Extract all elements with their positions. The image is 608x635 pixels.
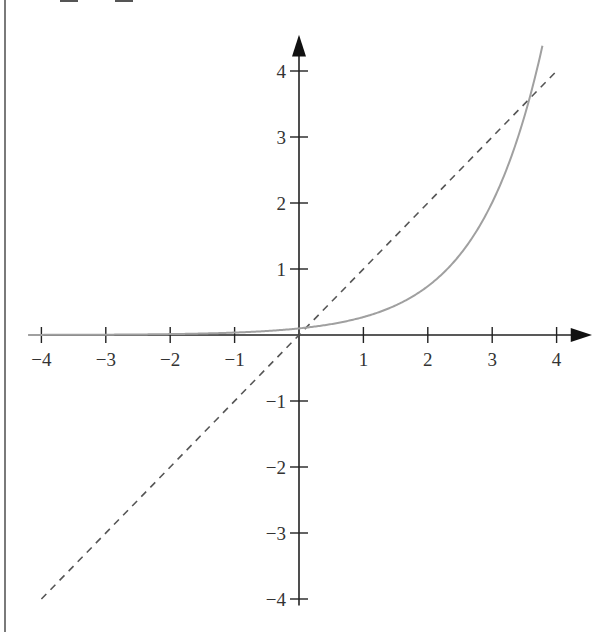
plot-series [29,46,557,599]
y-tick-label: −2 [266,457,286,478]
function-plot: −4−3−2−112344321−1−2−3−4 [0,0,608,635]
x-tick-label: 2 [423,349,433,370]
x-tick-label: 4 [552,349,562,370]
x-tick-label: 1 [359,349,369,370]
y-tick-label: −4 [266,589,287,610]
x-axis-arrow-icon [571,328,592,342]
y-tick-label: −1 [266,391,286,412]
x-tick-label: −1 [224,349,244,370]
y-tick-label: 2 [277,193,287,214]
y-tick-label: −3 [266,523,286,544]
y-tick-label: 1 [277,259,287,280]
y-tick-label: 4 [277,61,287,82]
exponential-curve [29,46,543,335]
x-tick-label: −2 [160,349,180,370]
x-tick-label: 3 [487,349,497,370]
x-tick-label: −4 [31,349,52,370]
y-tick-label: 3 [277,127,287,148]
y-axis-arrow-icon [292,35,306,57]
x-tick-label: −3 [96,349,116,370]
